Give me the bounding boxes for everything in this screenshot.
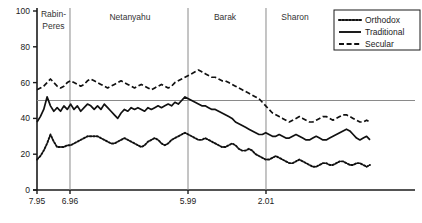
chart-container: 1008060402007.956.965.992.01Rabin-PeresN… [0, 0, 422, 223]
period-label-1: Netanyahu [109, 12, 150, 22]
legend-label-secular: Secular [365, 39, 394, 49]
period-label-2: Barak [214, 12, 237, 22]
y-axis-label-60: 60 [21, 78, 31, 88]
x-axis-label-7.95: 7.95 [29, 196, 46, 206]
period-label-3: Sharon [281, 12, 309, 22]
y-axis-label-20: 20 [21, 149, 31, 159]
legend-label-orthodox: Orthodox [365, 15, 401, 25]
y-axis-label-100: 100 [16, 6, 30, 16]
x-axis-label-5.99: 5.99 [180, 196, 197, 206]
y-axis-label-40: 40 [21, 113, 31, 123]
legend-label-traditional: Traditional [365, 27, 404, 37]
series-line-secular [37, 70, 370, 122]
period-label-0: Rabin- [41, 9, 66, 19]
y-axis-label-80: 80 [21, 42, 31, 52]
period-label-0-line2: Peres [42, 21, 64, 31]
line-chart: 1008060402007.956.965.992.01Rabin-PeresN… [0, 0, 422, 223]
x-axis-label-2.01: 2.01 [258, 196, 275, 206]
x-axis-label-6.96: 6.96 [62, 196, 79, 206]
y-axis-label-0: 0 [25, 185, 30, 195]
